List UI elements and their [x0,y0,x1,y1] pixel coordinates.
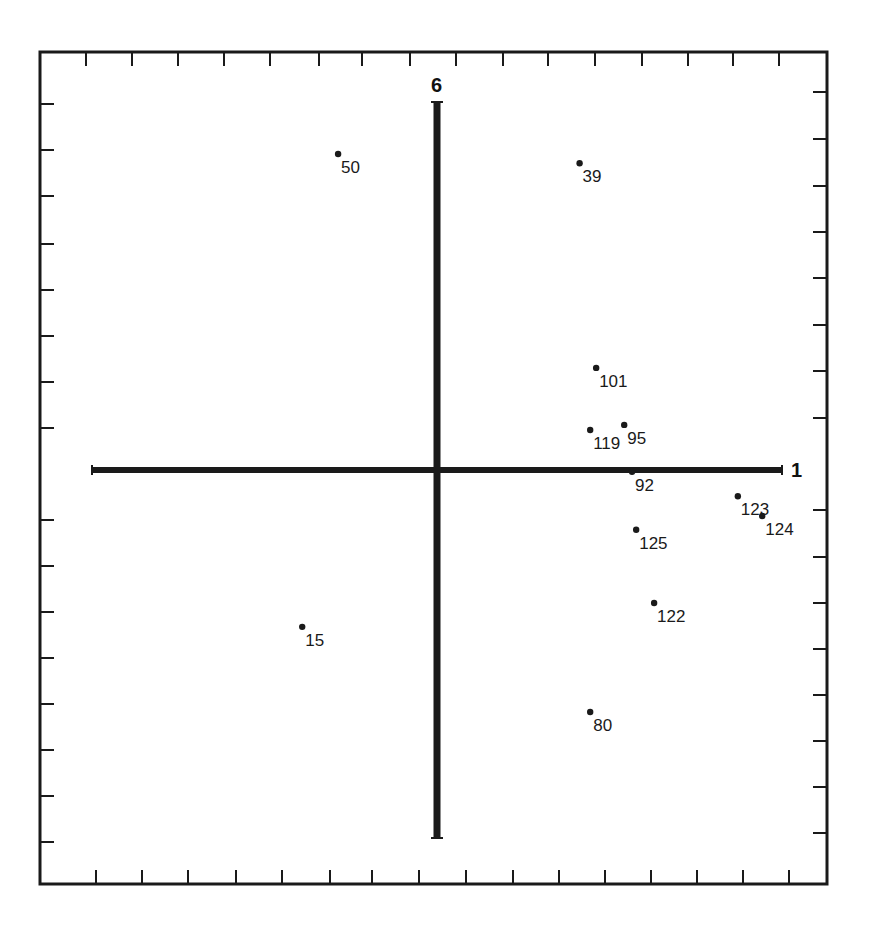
point-marker [651,600,657,606]
data-point: 39 [576,160,601,186]
x-axis-label: 1 [791,459,802,481]
point-marker [299,624,305,630]
axes: 1 6 [92,74,802,838]
point-marker [621,422,627,428]
data-points: 503910111995921231241251221580 [299,151,794,735]
point-label: 125 [639,534,667,553]
point-label: 80 [593,716,612,735]
point-label: 39 [583,167,602,186]
ordination-scatter-chart: 1 6 503910111995921231241251221580 [0,0,873,938]
data-point: 101 [593,365,628,391]
point-marker [335,151,341,157]
point-marker [629,469,635,475]
point-marker [633,527,639,533]
point-marker [587,427,593,433]
data-point: 125 [633,527,668,553]
point-label: 119 [593,434,620,453]
point-marker [587,709,593,715]
point-label: 50 [341,158,360,177]
point-label: 15 [305,631,324,650]
data-point: 124 [759,513,794,539]
chart-canvas: 1 6 503910111995921231241251221580 [0,0,873,938]
point-marker [759,513,765,519]
point-label: 95 [627,429,646,448]
data-point: 119 [587,427,620,453]
point-marker [735,493,741,499]
point-marker [593,365,599,371]
point-label: 92 [635,476,654,495]
point-label: 124 [765,520,793,539]
point-label: 122 [657,607,685,626]
data-point: 15 [299,624,324,650]
point-label: 101 [599,372,627,391]
data-point: 50 [335,151,360,177]
y-axis-label: 6 [431,74,442,96]
point-marker [576,160,582,166]
data-point: 95 [621,422,646,448]
data-point: 122 [651,600,686,626]
data-point: 80 [587,709,612,735]
